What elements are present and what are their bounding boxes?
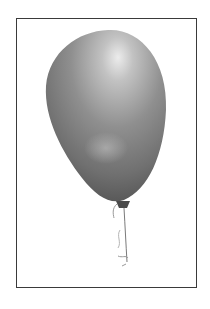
balloon-string	[113, 204, 128, 266]
balloon-illustration	[0, 0, 210, 309]
balloon-knot	[116, 201, 130, 208]
balloon-body	[46, 30, 166, 201]
